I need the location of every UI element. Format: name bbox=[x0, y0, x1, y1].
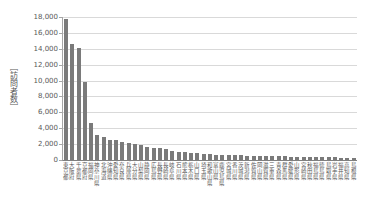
bar bbox=[133, 144, 137, 160]
x-tick-label: 神奈川県 bbox=[93, 162, 99, 212]
y-tick-label: 10,000 bbox=[24, 77, 58, 85]
bar bbox=[127, 143, 131, 160]
bar bbox=[195, 153, 199, 160]
bar bbox=[214, 155, 218, 160]
x-tick-label: 宮崎県 bbox=[300, 162, 306, 212]
bar bbox=[227, 155, 231, 160]
plot-area bbox=[62, 17, 357, 161]
bar bbox=[164, 149, 168, 160]
x-tick-label: 福井県 bbox=[337, 162, 343, 212]
x-tick-label: 香川県 bbox=[231, 162, 237, 212]
bar bbox=[345, 158, 349, 160]
x-tick-label: 大分県 bbox=[131, 162, 137, 212]
x-tick-label: 長崎県 bbox=[162, 162, 168, 212]
x-tick-label: 沖縄県 bbox=[106, 162, 112, 212]
x-tick-label: 三重県 bbox=[268, 162, 274, 212]
x-tick-label: 徳島県 bbox=[318, 162, 324, 212]
x-tick-label: 広島県 bbox=[150, 162, 156, 212]
x-tick-label: 秋田県 bbox=[306, 162, 312, 212]
bar-series bbox=[63, 17, 357, 160]
bar bbox=[64, 19, 68, 160]
x-tick-label: 京都府 bbox=[81, 162, 87, 212]
x-tick-label: 新潟県 bbox=[243, 162, 249, 212]
y-axis-title: ［訪問者数］ bbox=[8, 63, 17, 111]
x-tick-label: 埼玉県 bbox=[200, 162, 206, 212]
bar bbox=[108, 140, 112, 160]
bar bbox=[139, 145, 143, 160]
y-tick-label: 8,000 bbox=[24, 92, 58, 100]
bar bbox=[308, 157, 312, 160]
x-tick-label: 岩手県 bbox=[331, 162, 337, 212]
x-tick-label: 福島県 bbox=[312, 162, 318, 212]
bar bbox=[333, 157, 337, 160]
bar bbox=[352, 158, 356, 160]
y-tick-label: 6,000 bbox=[24, 108, 58, 116]
bar bbox=[270, 156, 274, 160]
x-tick-label: 山形県 bbox=[293, 162, 299, 212]
bar bbox=[120, 142, 124, 160]
bar bbox=[189, 153, 193, 160]
x-tick-label: 滋賀県 bbox=[262, 162, 268, 212]
x-tick-label: 長野県 bbox=[156, 162, 162, 212]
bar bbox=[252, 156, 256, 160]
x-tick-label: 島根県 bbox=[350, 162, 356, 212]
y-tick-label: 16,000 bbox=[24, 29, 58, 37]
x-tick-label: 大阪府 bbox=[68, 162, 74, 212]
bar bbox=[177, 152, 181, 160]
bar bbox=[70, 44, 74, 160]
bar bbox=[114, 140, 118, 160]
bar bbox=[89, 123, 93, 160]
bar-cell bbox=[351, 17, 357, 160]
bar bbox=[245, 156, 249, 160]
bar bbox=[208, 154, 212, 160]
x-tick-label: 愛知県 bbox=[112, 162, 118, 212]
bar bbox=[314, 157, 318, 160]
bar bbox=[77, 48, 81, 160]
x-tick-label: 佐賀県 bbox=[250, 162, 256, 212]
bar bbox=[295, 157, 299, 160]
x-tick-label: 石川県 bbox=[175, 162, 181, 212]
bar bbox=[233, 155, 237, 160]
x-tick-label: 兵庫県 bbox=[125, 162, 131, 212]
x-tick-label: 東京都 bbox=[62, 162, 68, 212]
x-tick-label: 宮城県 bbox=[225, 162, 231, 212]
bar bbox=[152, 148, 156, 160]
bar bbox=[283, 156, 287, 160]
x-tick-label: 静岡県 bbox=[143, 162, 149, 212]
x-tick-label: 青森県 bbox=[275, 162, 281, 212]
y-tick-label: 12,000 bbox=[24, 61, 58, 69]
bar bbox=[102, 137, 106, 160]
bar bbox=[158, 148, 162, 160]
x-tick-label: 熊本県 bbox=[181, 162, 187, 212]
y-tick-label: 4,000 bbox=[24, 124, 58, 132]
bar bbox=[95, 135, 99, 160]
x-tick-label: 高知県 bbox=[343, 162, 349, 212]
x-tick-label: 和歌山県 bbox=[206, 162, 212, 212]
x-tick-label: 北海道 bbox=[100, 162, 106, 212]
bar bbox=[239, 155, 243, 160]
x-axis-tick-labels: 東京都大阪府千葉県京都府福岡県神奈川県北海道沖縄県愛知県奈良県兵庫県大分県山梨県… bbox=[62, 162, 356, 212]
y-tick-label: 0 bbox=[24, 156, 58, 164]
x-tick-label: 鹿児島県 bbox=[218, 162, 224, 212]
y-tick-label: 2,000 bbox=[24, 140, 58, 148]
x-tick-label: 千葉県 bbox=[75, 162, 81, 212]
bar bbox=[145, 147, 149, 161]
bar bbox=[302, 157, 306, 160]
bar bbox=[220, 155, 224, 160]
bar bbox=[202, 154, 206, 160]
x-tick-label: 富山県 bbox=[212, 162, 218, 212]
x-tick-label: 福岡県 bbox=[87, 162, 93, 212]
x-tick-label: 愛媛県 bbox=[287, 162, 293, 212]
x-tick-label: 茨城県 bbox=[237, 162, 243, 212]
bar bbox=[264, 156, 268, 160]
bar bbox=[320, 157, 324, 160]
y-tick-label: 14,000 bbox=[24, 45, 58, 53]
bar bbox=[327, 157, 331, 160]
x-tick-label: 山口県 bbox=[193, 162, 199, 212]
x-tick-label: 奈良県 bbox=[118, 162, 124, 212]
bar bbox=[183, 152, 187, 160]
bar bbox=[83, 82, 87, 160]
bar bbox=[258, 156, 262, 160]
x-tick-label: 岐阜県 bbox=[168, 162, 174, 212]
x-tick-label: 岡山県 bbox=[256, 162, 262, 212]
